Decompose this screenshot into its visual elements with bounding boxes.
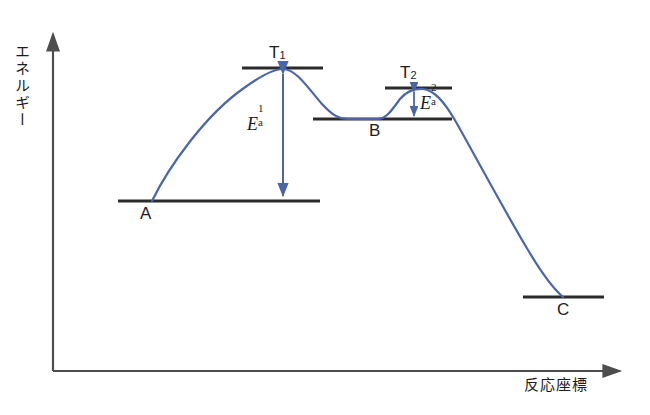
level-label-T1-sub: 1 — [279, 49, 285, 61]
level-label-T1-base: T — [269, 43, 279, 62]
Ea1-base: E — [247, 114, 258, 134]
Ea2-superscript: 2 — [431, 82, 437, 93]
reaction-path-curve — [152, 69, 563, 297]
level-label-T2-base: T — [400, 63, 410, 82]
Ea1-superscript: 1 — [258, 103, 264, 114]
Ea1-indices: 1a — [258, 112, 270, 130]
Ea2-indices: 2a — [431, 91, 443, 109]
level-label-T1: T1 — [269, 44, 286, 61]
level-label-C: C — [557, 301, 569, 318]
activation-energy-label-Ea2: E2a — [420, 91, 443, 112]
Ea2-subscript: a — [431, 96, 436, 107]
y-axis-label: エネルギー — [14, 44, 29, 129]
level-label-T2-sub: 2 — [410, 69, 416, 81]
x-axis-label: 反応座標 — [524, 377, 588, 392]
level-label-T2: T2 — [400, 64, 417, 81]
level-label-B: B — [369, 122, 380, 139]
diagram-canvas — [0, 0, 650, 415]
Ea1-subscript: a — [258, 117, 263, 128]
level-label-A: A — [140, 205, 151, 222]
activation-energy-label-Ea1: E1a — [247, 112, 270, 133]
reaction-coordinate-diagram: エネルギー 反応座標 A T1 B T2 C E1a E2a — [0, 0, 650, 415]
Ea2-base: E — [420, 93, 431, 113]
